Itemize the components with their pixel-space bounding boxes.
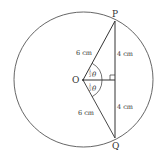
angle-lower-label: 1 2 θ <box>89 83 97 93</box>
angle-upper-label: 1 2 θ <box>89 69 97 79</box>
angle-upper-theta: θ <box>92 71 97 79</box>
angle-upper-num: 1 <box>89 69 91 73</box>
angle-lower-den: 2 <box>89 88 91 92</box>
point-o-dot <box>82 79 84 81</box>
point-q-label: Q <box>112 141 119 151</box>
angle-upper-den: 2 <box>89 74 91 78</box>
angle-lower-num: 1 <box>89 83 91 87</box>
segment-mq-label: 4 cm <box>117 103 133 111</box>
point-p-label: P <box>112 9 118 19</box>
segment-pm-label: 4 cm <box>117 50 133 58</box>
circle-diagram: P Q O 6 cm 6 cm 4 cm 4 cm 1 2 θ 1 2 θ <box>0 0 156 157</box>
point-o-label: O <box>72 75 79 85</box>
segment-oq-label: 6 cm <box>78 109 94 117</box>
right-angle-marker <box>110 75 115 80</box>
angle-lower-theta: θ <box>92 85 97 93</box>
segment-op-label: 6 cm <box>76 49 92 57</box>
